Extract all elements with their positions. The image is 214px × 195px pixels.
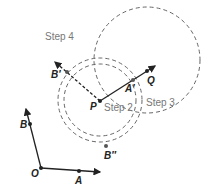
point-B-prime-label: B′	[51, 69, 61, 80]
point-B-label: B	[20, 119, 27, 130]
point-A-prime-label: A′	[124, 83, 135, 94]
step-3-label: Step 3	[146, 97, 175, 108]
point-B-double-prime-label: B″	[104, 150, 117, 161]
angle-A'PB'	[55, 62, 155, 101]
construction-diagram: Step 4 Step 2 Step 3 P Q A′ B′ B″ B O A	[0, 0, 214, 195]
step-4-label: Step 4	[45, 31, 74, 42]
point-A-label: A	[74, 175, 82, 186]
point-Q-label: Q	[147, 75, 155, 86]
point-O-label: O	[31, 168, 39, 179]
step-2-label: Step 2	[104, 102, 133, 113]
point-P-label: P	[90, 101, 97, 112]
